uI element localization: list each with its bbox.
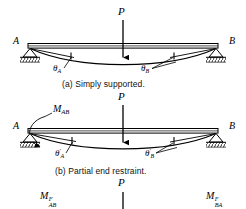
theta-b-prime-subscript: B xyxy=(151,153,155,159)
caption-panel-a: (a) Simply supported. xyxy=(62,79,145,89)
support-b-right-b xyxy=(206,134,226,148)
panel-b-graphic xyxy=(20,105,226,153)
tangent-line-b-left xyxy=(30,134,76,142)
label-moment-ab: MAB xyxy=(53,104,69,116)
theta-b-prime-leader-2 xyxy=(156,148,177,154)
caption-panel-b: (b) Partial end restraint. xyxy=(55,166,146,176)
fem-ba-affixes: FBA xyxy=(215,196,223,208)
fem-ab-affixes: FAB xyxy=(49,196,57,208)
label-support-a: A xyxy=(13,36,19,46)
label-load-p-b: P xyxy=(118,91,125,102)
moment-label-leader xyxy=(45,113,52,117)
label-fixed-end-moment-ab: MFAB xyxy=(40,191,56,208)
theta-a-subscript: A xyxy=(57,68,61,74)
theta-a-prime-subscript: A xyxy=(61,153,65,159)
label-theta-a: θA xyxy=(53,64,61,75)
theta-b-subscript: B xyxy=(145,68,149,74)
fem-ab-subscript: AB xyxy=(49,202,57,208)
panel-a-graphic xyxy=(20,20,226,69)
theta-a-leader xyxy=(64,57,72,68)
label-support-a-b: A xyxy=(13,121,19,131)
label-support-b: B xyxy=(229,36,235,46)
fem-ab-m-glyph: M xyxy=(40,190,48,201)
label-load-p-c: P xyxy=(118,177,125,188)
label-theta-b: θB xyxy=(141,64,149,75)
support-a-left-b xyxy=(20,134,40,148)
theta-b-prime-leader-1 xyxy=(156,143,173,153)
theta-a-prime-leader xyxy=(66,142,73,153)
moment-ab-subscript: AB xyxy=(61,108,69,115)
support-b-right xyxy=(206,49,226,63)
support-a-left xyxy=(20,49,40,63)
label-support-b-b: B xyxy=(229,121,235,131)
beam-diagram-figure: A B P θA θB (a) Simply supported. A B P … xyxy=(0,0,246,209)
label-theta-b-prime: θ′B xyxy=(145,149,154,160)
label-load-p-a: P xyxy=(118,6,125,17)
label-theta-a-prime: θ′A xyxy=(55,149,64,160)
fem-ba-subscript: BA xyxy=(215,202,223,208)
fem-ba-m-glyph: M xyxy=(206,190,214,201)
label-fixed-end-moment-ba: MFBA xyxy=(206,191,222,208)
